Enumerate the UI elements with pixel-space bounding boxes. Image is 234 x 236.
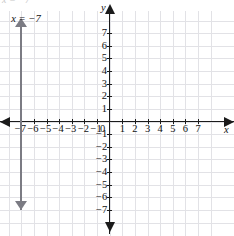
line-equation-label: x = −7 [11,13,40,24]
y-axis-tick-label: −2 [96,141,107,152]
y-axis-down-arrow-icon [105,222,115,232]
gridline-horizontal [0,210,234,211]
gridline-horizontal [0,33,234,34]
y-axis-tick [107,185,112,186]
y-axis-tick [107,71,112,72]
gridline-horizontal [0,84,234,85]
gridline-horizontal [0,96,234,97]
vertical-line-series [20,26,22,210]
x-axis-tick-label: 6 [183,123,188,134]
gridline-horizontal [0,185,234,186]
gridline-horizontal [0,172,234,173]
y-axis-tick-label: 3 [96,78,107,89]
y-axis-tick-label: 1 [96,103,107,114]
x-axis-left-arrow-icon [0,117,10,127]
x-axis-tick-label: 3 [145,123,150,134]
x-axis-tick-label: 7 [195,123,200,134]
y-axis-tick-label: 6 [96,40,107,51]
y-axis-tick-label: −5 [96,179,107,190]
y-axis-up-arrow-icon [105,4,115,14]
y-axis-tick-label: 7 [96,27,107,38]
gridline-horizontal [0,58,234,59]
y-axis-tick [107,159,112,160]
y-axis-tick-label: 2 [96,90,107,101]
gridline-horizontal [0,159,234,160]
y-axis-tick [107,109,112,110]
y-axis-tick [107,84,112,85]
gridline-vertical [211,11,212,236]
y-axis-tick [107,58,112,59]
y-axis-tick-label: 4 [96,65,107,76]
y-axis-tick [107,210,112,211]
y-axis-tick [107,147,112,148]
x-axis-name: x [224,124,229,135]
gridline-horizontal [0,223,234,224]
y-axis-tick-label: −7 [96,204,107,215]
y-axis [109,6,110,234]
x-axis-tick-label: −4 [53,123,64,134]
gridline-horizontal [0,147,234,148]
y-axis-tick-label: −3 [96,153,107,164]
gridline-horizontal [0,109,234,110]
x-axis-tick-label: 1 [120,123,125,134]
y-axis-tick [107,197,112,198]
x-axis-tick-label: 2 [132,123,137,134]
line-down-arrow-icon [15,201,27,210]
y-axis-tick-label: −4 [96,166,107,177]
x-axis [0,121,234,122]
y-axis-tick [107,172,112,173]
y-axis-tick-label: 5 [96,52,107,63]
x-axis-tick-label: 5 [170,123,175,134]
graph-figure: x = −7 −7−6−5−4−3−2−112345677654321−1−2−… [0,0,234,236]
y-axis-tick [107,96,112,97]
y-axis-tick [107,33,112,34]
x-axis-tick-label: −2 [78,123,89,134]
gridline-horizontal [0,197,234,198]
gridline-horizontal [0,134,234,135]
x-axis-tick-label: −5 [40,123,51,134]
x-axis-tick-label: −3 [65,123,76,134]
y-axis-tick [107,134,112,135]
origin-label: 0 [100,123,105,134]
y-axis-tick-label: −6 [96,191,107,202]
x-axis-tick-label: 4 [158,123,163,134]
x-axis-tick-label: −6 [27,123,38,134]
gridline-horizontal [0,46,234,47]
coordinate-plane: −7−6−5−4−3−2−112345677654321−1−2−3−4−5−6… [0,0,234,236]
gridline-horizontal [0,71,234,72]
y-axis-tick [107,46,112,47]
y-axis-name: y [101,2,106,13]
